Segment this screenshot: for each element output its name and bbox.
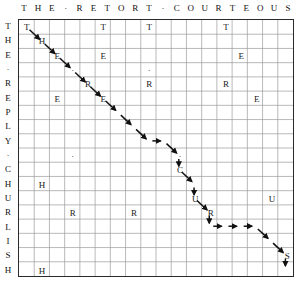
matrix-cell-letter: E [96, 92, 111, 106]
matrix-grid: TTTTHEEE··RRREEE··CHUURRRSH [18, 19, 294, 277]
matrix-cell-letter: R [218, 77, 233, 91]
matrix-cell-letter: T [96, 20, 111, 34]
row-header-letter: H [2, 33, 14, 47]
row-header-letter: I [2, 234, 14, 248]
matrix-cell-letter: E [234, 49, 249, 63]
alignment-matrix-figure: THE·RETORT·COURTEOUS THE·REPLY·CHURLISH … [0, 0, 298, 285]
row-header-letter: E [2, 48, 14, 62]
row-header-letter: T [2, 19, 14, 33]
row-header-letter: R [2, 205, 14, 219]
matrix-cell-letter: E [50, 49, 65, 63]
matrix-cell-letter: R [203, 206, 218, 220]
matrix-cell-letter: E [249, 92, 264, 106]
row-header-letter: Y [2, 134, 14, 148]
row-header-letter: P [2, 105, 14, 119]
row-header-letter: U [2, 191, 14, 205]
matrix-cell-letter: U [188, 192, 203, 206]
row-header-letter: H [2, 263, 14, 277]
row-header-letter: E [2, 91, 14, 105]
matrix-cell-letter: H [34, 264, 49, 278]
matrix-cell-letter: H [34, 34, 49, 48]
row-header-letter: H [2, 177, 14, 191]
matrix-cell-letter: R [65, 206, 80, 220]
row-header-letter: R [2, 76, 14, 90]
matrix-cell-letter: T [218, 20, 233, 34]
matrix-cell-letter: H [34, 178, 49, 192]
row-header-letter: S [2, 248, 14, 262]
matrix-cell-letter: · [65, 149, 80, 163]
matrix-cell-letter: E [50, 92, 65, 106]
matrix-cell-letter: S [280, 249, 295, 263]
matrix-cell-letter: C [172, 163, 187, 177]
matrix-cell-letter: T [19, 20, 34, 34]
matrix-cell-letter: · [65, 63, 80, 77]
matrix-cell-letter: · [142, 63, 157, 77]
matrix-cell-letter: U [264, 192, 279, 206]
row-header-letter: C [2, 162, 14, 176]
matrix-cell-letter: R [80, 77, 95, 91]
row-header-letter: L [2, 119, 14, 133]
matrix-cell-letter: R [126, 206, 141, 220]
row-header-letter: L [2, 220, 14, 234]
column-header-letter: S [280, 2, 296, 14]
row-header-letter: · [2, 62, 14, 76]
matrix-cell-letter: R [142, 77, 157, 91]
row-header-letter: · [2, 148, 14, 162]
matrix-cell-letter: T [142, 20, 157, 34]
matrix-cell-letter: · [172, 149, 187, 163]
matrix-cell-letter: E [96, 49, 111, 63]
